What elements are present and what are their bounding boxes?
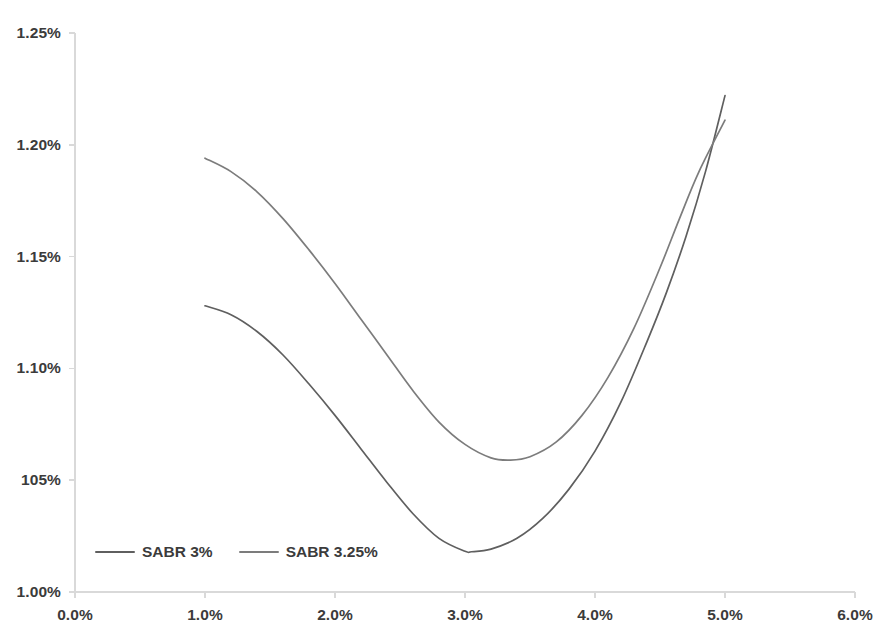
y-axis-tick-label: 1.00%: [0, 583, 61, 601]
axis-lines: [69, 33, 855, 598]
y-axis-tick-label: 1.10%: [0, 359, 61, 377]
y-axis-tick-label: 1.15%: [0, 248, 61, 266]
legend-line-swatch: [95, 551, 135, 553]
legend-item[interactable]: SABR 3%: [95, 543, 213, 561]
x-axis-tick-label: 4.0%: [577, 606, 613, 624]
legend-item[interactable]: SABR 3.25%: [239, 543, 378, 561]
series-lines: [205, 96, 725, 553]
y-axis-tick-label: 1.20%: [0, 136, 61, 154]
chart-container: 1.25%1.20%1.15%1.10%105%1.00% 0.0%1.0%2.…: [0, 0, 883, 643]
legend-item-label: SABR 3.25%: [286, 543, 378, 561]
x-axis-tick-label: 1.0%: [187, 606, 223, 624]
x-axis-tick-label: 3.0%: [447, 606, 483, 624]
x-axis-tick-label: 0.0%: [57, 606, 93, 624]
x-axis-tick-label: 5.0%: [707, 606, 743, 624]
x-axis-tick-label: 2.0%: [317, 606, 353, 624]
series-line: [205, 96, 725, 553]
legend-item-label: SABR 3%: [142, 543, 213, 561]
y-axis-tick-label: 105%: [0, 471, 61, 489]
x-axis-tick-label: 6.0%: [837, 606, 873, 624]
series-line: [205, 120, 725, 460]
y-axis-tick-label: 1.25%: [0, 24, 61, 42]
legend-line-swatch: [239, 551, 279, 553]
chart-legend: SABR 3%SABR 3.25%: [95, 543, 378, 561]
